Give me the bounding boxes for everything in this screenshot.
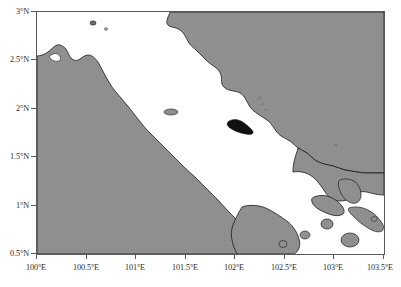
xtick-102 [234, 254, 235, 259]
islet-rupat [164, 109, 178, 115]
xtick-label-102: 102°E [224, 263, 244, 272]
islet-north-center [104, 28, 108, 31]
ytick-label-1-5: 1.5°N [0, 152, 29, 161]
xtick-label-103: 103°E [323, 263, 343, 272]
map-plot-frame[interactable] [36, 11, 385, 255]
xtick-label-100: 100°E [26, 263, 46, 272]
ytick-2-5 [31, 59, 36, 60]
map-canvas[interactable] [37, 12, 384, 254]
xtick-100-5 [86, 254, 87, 259]
ytick-label-2-5: 2.5°N [0, 55, 29, 64]
ytick-label-3: 3°N [0, 7, 29, 16]
xtick-103-5 [383, 254, 384, 259]
xtick-label-103-5: 103.5°E [367, 263, 393, 272]
ytick-3 [31, 11, 36, 12]
xtick-103 [333, 254, 334, 259]
xtick-label-101: 101°E [125, 263, 145, 272]
islet-mid-strait-c [265, 109, 267, 111]
ytick-1 [31, 205, 36, 206]
island-batam-small [321, 219, 333, 229]
xtick-label-100-5: 100.5°E [73, 263, 99, 272]
ytick-label-1: 1°N [0, 201, 29, 210]
xtick-101 [135, 254, 136, 259]
xtick-label-101-5: 101.5°E [172, 263, 198, 272]
island-se-tiny-c [371, 217, 377, 222]
island-se-tiny-b [279, 241, 287, 248]
xtick-label-102-5: 102.5°E [271, 263, 297, 272]
island-se-tiny-a [300, 231, 310, 239]
ytick-1-5 [31, 156, 36, 157]
xtick-101-5 [185, 254, 186, 259]
ytick-label-0-5: 0.5°N [0, 249, 29, 258]
islet-mid-strait-a [259, 97, 262, 99]
map-figure: 3°N 2.5°N 2°N 1.5°N 1°N 0.5°N 100°E 100.… [0, 0, 401, 287]
ytick-2 [31, 108, 36, 109]
islet-mid-strait-b [262, 103, 264, 105]
xtick-100 [36, 254, 37, 259]
islet-north-west [90, 21, 96, 25]
island-bintan-small [341, 233, 359, 247]
ytick-label-2: 2°N [0, 104, 29, 113]
islet-east-small [334, 144, 338, 146]
xtick-102-5 [284, 254, 285, 259]
